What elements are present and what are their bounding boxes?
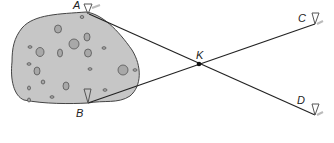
point-K <box>197 62 202 67</box>
label-C: C <box>298 12 306 24</box>
stake-icon-C <box>312 13 323 24</box>
stake-icon-D <box>312 104 323 115</box>
diagram-canvas: A B C D K <box>0 0 334 143</box>
label-D: D <box>297 94 305 106</box>
label-A: A <box>72 0 80 11</box>
obstacle-region <box>12 12 140 104</box>
label-K: K <box>196 49 204 61</box>
label-B: B <box>76 107 83 119</box>
